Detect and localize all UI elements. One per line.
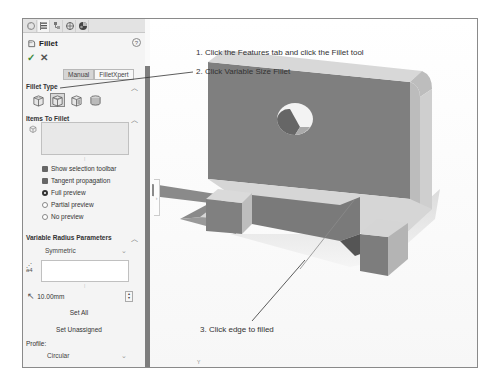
panel-collapse-handle[interactable]: ›: [154, 179, 160, 216]
resize-grip-icon[interactable]: ⁞: [84, 283, 85, 289]
partial-preview-radio[interactable]: Partial preview: [42, 201, 94, 208]
dimxpert-icon[interactable]: [64, 20, 76, 32]
fillet-icon: [27, 39, 36, 48]
items-to-fillet-list[interactable]: [41, 122, 129, 155]
option-label: No preview: [51, 213, 84, 220]
set-all-button[interactable]: Set All: [23, 307, 135, 319]
checkbox-checked-icon[interactable]: [42, 166, 48, 172]
items-to-fillet-label: Items To Fillet: [26, 115, 69, 122]
resize-grip-icon[interactable]: ⁞: [84, 156, 85, 162]
ok-cancel-row: ✓ ✕: [27, 52, 48, 62]
ok-button[interactable]: ✓: [27, 52, 35, 63]
help-icon[interactable]: ?: [132, 38, 141, 47]
chevron-up-icon[interactable]: ︿: [131, 82, 138, 92]
variable-radius-label: Variable Radius Parameters: [26, 234, 112, 241]
profile-label: Profile:: [26, 340, 46, 347]
back-plate-front: [208, 62, 410, 199]
fillet-type-label: Fillet Type: [26, 83, 58, 90]
vertex-radius-list[interactable]: [41, 260, 129, 282]
manual-tab[interactable]: Manual: [63, 69, 94, 80]
callout-step-2: 2. Click Variable Size Fillet: [196, 67, 290, 76]
option-label: Show selection toolbar: [51, 165, 116, 172]
show-selection-toolbar-checkbox[interactable]: Show selection toolbar: [42, 165, 116, 172]
right-block-front: [360, 234, 388, 276]
vertex-radius-icon: ⋰ə4: [26, 263, 33, 273]
manager-tab-bar: [23, 19, 145, 33]
radio-icon[interactable]: [42, 202, 48, 208]
configuration-icon[interactable]: [51, 20, 63, 32]
property-manager-icon[interactable]: [38, 20, 50, 32]
page-title: Fillet: [39, 39, 58, 48]
checkbox-checked-icon[interactable]: [42, 178, 48, 184]
option-label: Partial preview: [51, 201, 94, 208]
no-preview-radio[interactable]: No preview: [42, 213, 84, 220]
back-plate-side: [410, 82, 420, 219]
option-label: Full preview: [51, 189, 86, 196]
fillet-type-header[interactable]: Fillet Type ︿: [26, 82, 138, 91]
profile-value: Circular: [47, 352, 69, 363]
full-preview-radio[interactable]: Full preview: [42, 189, 86, 196]
triad-y-label: Y: [197, 359, 200, 365]
constant-size-fillet-button[interactable]: [31, 93, 46, 107]
radius-spinner[interactable]: ▴▾: [125, 291, 133, 302]
fillet-mode-toggle: Manual FilletXpert: [63, 69, 134, 80]
back-plate-right-face: [420, 89, 432, 219]
radius-input[interactable]: [37, 291, 125, 302]
tangent-propagation-checkbox[interactable]: Tangent propagation: [42, 177, 110, 184]
symmetric-value: Symmetric: [45, 247, 76, 257]
chevron-down-icon: ⌄: [121, 247, 127, 257]
radio-selected-icon[interactable]: [42, 190, 48, 196]
cancel-button[interactable]: ✕: [40, 52, 48, 63]
left-block-front: [206, 199, 242, 234]
chevron-down-icon: ⌄: [121, 352, 127, 363]
face-fillet-button[interactable]: [69, 93, 84, 107]
display-manager-icon[interactable]: [77, 20, 89, 32]
property-manager-panel: Fillet ? ✓ ✕ Manual FilletXpert Fillet T…: [23, 19, 145, 367]
option-label: Tangent propagation: [51, 177, 110, 184]
callout-step-1: 1. Click the Features tab and click the …: [196, 48, 364, 57]
symmetric-dropdown[interactable]: Symmetric ⌄: [43, 247, 131, 257]
radio-icon[interactable]: [42, 214, 48, 220]
fillet-type-options: [31, 93, 103, 107]
edge-selection-icon: [29, 125, 37, 133]
filletxpert-tab[interactable]: FilletXpert: [94, 69, 133, 80]
feature-title-row: Fillet ?: [27, 37, 141, 49]
radius-field: ↖ ▴▾: [27, 290, 133, 302]
profile-dropdown[interactable]: Circular ⌄: [43, 352, 131, 363]
full-round-fillet-button[interactable]: [88, 93, 103, 107]
chevron-up-icon[interactable]: ︿: [131, 114, 138, 124]
set-unassigned-button[interactable]: Set Unassigned: [23, 324, 135, 336]
radius-icon: ↖: [27, 291, 35, 301]
variable-radius-header[interactable]: Variable Radius Parameters ︿: [26, 233, 138, 242]
chevron-up-icon[interactable]: ︿: [131, 233, 138, 243]
callout-step-3: 3. Click edge to filled: [200, 325, 274, 334]
variable-size-fillet-button[interactable]: [50, 93, 65, 107]
feature-tree-icon[interactable]: [25, 20, 37, 32]
